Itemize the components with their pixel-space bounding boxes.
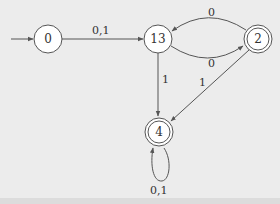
edge-label-13-to-4: 1: [162, 73, 169, 86]
edge-label-2-to-13: 0: [208, 6, 215, 19]
bottom-band: [0, 198, 280, 204]
state-4-accepting: 4: [145, 118, 173, 146]
state-0-label: 0: [44, 32, 52, 46]
edge-4-self-loop: [152, 148, 169, 181]
edge-label-2-to-4: 1: [199, 76, 206, 89]
edge-13-to-2: [171, 46, 243, 58]
state-4-label: 4: [155, 125, 163, 139]
state-0: 0: [34, 25, 62, 53]
edge-label-13-to-2: 0: [208, 57, 215, 70]
state-2-label: 2: [254, 32, 262, 46]
automaton-diagram: 0,1 0 0 1 1 0,1 0 13 2: [0, 0, 280, 204]
edge-label-0-to-13: 0,1: [92, 24, 110, 37]
state-13: 13: [144, 25, 172, 53]
edge-2-to-13: [172, 18, 246, 31]
diagram-svg: 0,1 0 0 1 1 0,1 0 13 2: [0, 0, 280, 204]
state-13-label: 13: [150, 32, 165, 46]
state-2-accepting: 2: [244, 25, 272, 53]
edge-label-4-self-loop: 0,1: [150, 184, 168, 197]
